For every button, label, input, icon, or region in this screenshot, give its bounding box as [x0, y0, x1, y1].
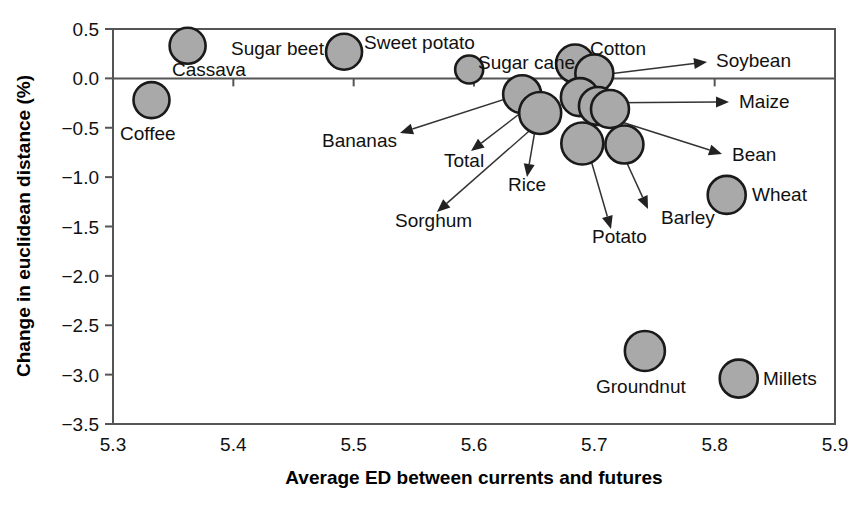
- data-point-coffee[interactable]: [134, 82, 170, 118]
- x-tick-label: 5.4: [220, 434, 247, 455]
- point-label-maize: Maize: [739, 91, 790, 112]
- point-label-sweet-potato: Sweet potato: [364, 32, 475, 53]
- x-tick-label: 5.3: [100, 434, 126, 455]
- y-tick-label: −3.0: [61, 365, 99, 386]
- y-tick-label: −2.5: [61, 315, 99, 336]
- point-label-total: Total: [444, 150, 484, 171]
- y-tick-label: 0.0: [73, 68, 99, 89]
- point-label-wheat: Wheat: [752, 184, 808, 205]
- y-tick-label: 0.5: [73, 19, 99, 40]
- chart-figure: 5.35.45.55.65.75.85.9 0.50.0−0.5−1.0−1.5…: [0, 0, 867, 508]
- y-tick-label: −2.0: [61, 266, 99, 287]
- x-tick-label: 5.7: [581, 434, 607, 455]
- point-label-sugar-cane: Sugar cane: [478, 52, 575, 73]
- x-tick-label: 5.8: [701, 434, 727, 455]
- scatter-plot: 5.35.45.55.65.75.85.9 0.50.0−0.5−1.0−1.5…: [0, 0, 867, 508]
- y-tick-label: −1.0: [61, 167, 99, 188]
- y-tick-label: −3.5: [61, 414, 99, 435]
- point-label-cotton: Cotton: [590, 38, 646, 59]
- y-tick-label: −0.5: [61, 118, 99, 139]
- point-label-potato: Potato: [592, 226, 647, 247]
- point-label-coffee: Coffee: [120, 123, 176, 144]
- point-label-cassava: Cassava: [172, 59, 246, 80]
- point-label-bean: Bean: [732, 144, 776, 165]
- point-label-sugar-beet: Sugar beet: [231, 38, 325, 59]
- point-label-bananas: Bananas: [322, 130, 397, 151]
- y-axis-title: Change in euclidean distance (%): [13, 75, 34, 377]
- x-axis-title: Average ED between currents and futures: [285, 467, 662, 488]
- data-point-potato[interactable]: [625, 331, 665, 371]
- point-label-rice: Rice: [508, 174, 546, 195]
- data-point-total[interactable]: [519, 92, 561, 134]
- point-label-barley: Barley: [661, 207, 715, 228]
- x-tick-label: 5.9: [822, 434, 848, 455]
- data-point-rice[interactable]: [591, 90, 629, 128]
- x-tick-label: 5.6: [461, 434, 487, 455]
- data-point-millets[interactable]: [720, 360, 758, 398]
- point-label-soybean: Soybean: [716, 50, 791, 71]
- data-point-barley[interactable]: [605, 126, 643, 164]
- y-tick-label: −1.5: [61, 217, 99, 238]
- x-axis-tick-labels: 5.35.45.55.65.75.85.9: [100, 434, 848, 455]
- y-axis-tick-labels: 0.50.0−0.5−1.0−1.5−2.0−2.5−3.0−3.5: [61, 19, 99, 435]
- point-label-groundnut: Groundnut: [596, 376, 687, 397]
- point-labels: CassavaSugar beetSweet potatoSugar caneC…: [120, 32, 817, 397]
- point-label-sorghum: Sorghum: [395, 210, 472, 231]
- point-label-millets: Millets: [763, 368, 817, 389]
- data-point-sugar-beet[interactable]: [326, 34, 362, 70]
- x-tick-label: 5.5: [340, 434, 366, 455]
- data-point-maize[interactable]: [561, 123, 603, 165]
